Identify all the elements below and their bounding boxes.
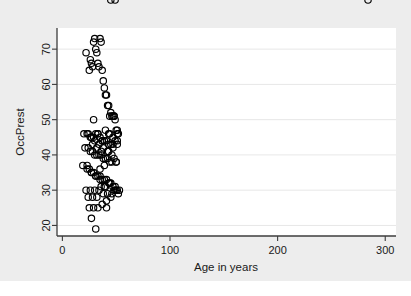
y-tick-label-50: 50 <box>40 114 52 126</box>
data-point <box>365 0 371 3</box>
x-tick-label-300: 300 <box>376 244 394 256</box>
y-tick-label-60: 60 <box>40 78 52 90</box>
y-tick-label-70: 70 <box>40 43 52 55</box>
x-axis-title: Age in years <box>194 261 258 273</box>
y-tick-label-40: 40 <box>40 149 52 161</box>
y-tick-label-30: 30 <box>40 184 52 196</box>
x-tick-label-100: 100 <box>161 244 179 256</box>
scatter-plot: 0100200300 203040506070 Age in years Occ… <box>0 0 411 281</box>
x-tick-label-0: 0 <box>59 244 65 256</box>
x-tick-label-200: 200 <box>268 244 286 256</box>
y-axis-title: OccPrest <box>14 108 26 156</box>
y-axis-ticks: 203040506070 <box>40 43 57 232</box>
y-tick-label-20: 20 <box>40 219 52 231</box>
chart-figure: 0100200300 203040506070 Age in years Occ… <box>0 0 411 281</box>
data-point <box>112 0 118 3</box>
x-axis-ticks: 0100200300 <box>59 236 394 256</box>
